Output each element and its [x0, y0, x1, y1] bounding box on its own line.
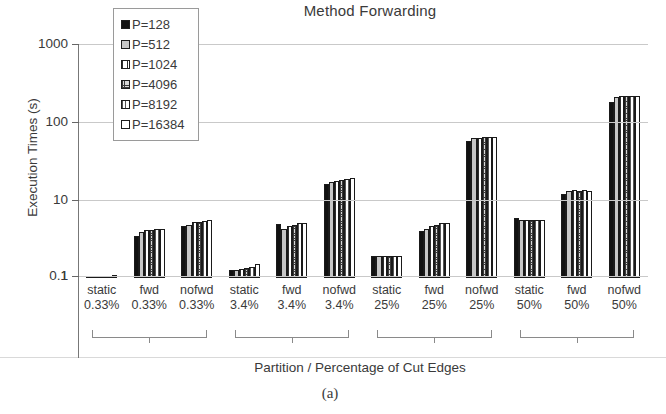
legend-label: P=8192 [132, 97, 177, 112]
x-tick-partition: nofwd [465, 283, 498, 297]
legend-item-P-1024: P=1024 [121, 54, 193, 74]
x-tick-labels: static0.33%fwd0.33%nofwd0.33%static3.4%f… [78, 283, 648, 327]
legend-item-P-128: P=128 [121, 14, 193, 34]
group-bracket-25% [377, 330, 492, 338]
bar [397, 256, 402, 278]
legend-label: P=128 [132, 17, 170, 32]
group-brackets [78, 327, 648, 343]
y-tick-label-0.1: 0.1 [0, 268, 68, 283]
bar-group-static-25% [371, 44, 402, 278]
legend-item-P-4096: P=4096 [121, 74, 193, 94]
bar [160, 229, 165, 278]
y-tick-label-1000: 1000 [0, 36, 68, 51]
x-tick-partition: nofwd [323, 283, 356, 297]
y-tick-0.1 [72, 276, 79, 277]
x-axis-label: Partition / Percentage of Cut Edges [150, 360, 570, 375]
group-bracket-3.4% [235, 330, 350, 338]
legend: P=128P=512P=1024P=4096P=8192P=16384 [113, 8, 199, 141]
bar [492, 137, 497, 278]
bar-group-nofwd-50% [609, 44, 640, 278]
legend-label: P=1024 [132, 57, 177, 72]
bar [635, 96, 640, 278]
bar [540, 220, 545, 278]
bar-group-fwd-50% [561, 44, 592, 278]
bracket-stem [577, 337, 578, 343]
y-axis-extension [78, 278, 79, 358]
bar-group-static-50% [514, 44, 545, 278]
y-tick-label-100: 100 [0, 114, 68, 129]
legend-label: P=4096 [132, 77, 177, 92]
bar-group-fwd-3.4% [276, 44, 307, 278]
bar-group-nofwd-3.4% [324, 44, 355, 278]
x-tick-partition: static [515, 283, 544, 297]
figure-method-forwarding: Method Forwarding Execution Times (s) 10… [0, 0, 666, 414]
legend-item-P-16384: P=16384 [121, 114, 193, 134]
legend-swatch-vline2 [121, 100, 130, 109]
bar [445, 223, 450, 278]
y-tick-label-10: 10 [0, 192, 68, 207]
bottom-divider [0, 357, 666, 358]
group-bracket-50% [520, 330, 635, 338]
x-tick-partition: fwd [282, 283, 301, 297]
bar [302, 223, 307, 278]
x-tick-partition: fwd [140, 283, 159, 297]
bar [587, 191, 592, 278]
legend-label: P=16384 [132, 117, 184, 132]
y-tick-100 [72, 122, 79, 123]
legend-swatch-white [121, 120, 130, 129]
legend-swatch-dots [121, 40, 130, 49]
x-tick-partition: fwd [567, 283, 586, 297]
bar [350, 178, 355, 278]
legend-swatch-vline [121, 60, 130, 69]
x-tick-label: nofwd50% [597, 283, 653, 313]
x-tick-partition: nofwd [180, 283, 213, 297]
bar-group-static-3.4% [229, 44, 260, 278]
y-axis-label: Execution Times (s) [25, 43, 40, 273]
chart-title: Method Forwarding [250, 2, 490, 19]
figure-caption: (a) [250, 385, 410, 402]
bar-group-nofwd-25% [466, 44, 497, 278]
legend-swatch-solid [121, 20, 130, 29]
x-tick-partition: fwd [425, 283, 444, 297]
bar [207, 220, 212, 278]
x-tick-partition: static [372, 283, 401, 297]
x-tick-partition: nofwd [608, 283, 641, 297]
y-tick-1000 [72, 44, 79, 45]
legend-item-P-512: P=512 [121, 34, 193, 54]
x-tick-partition: static [87, 283, 116, 297]
gridline-0.1 [78, 276, 648, 277]
bracket-stem [292, 337, 293, 343]
legend-label: P=512 [132, 37, 170, 52]
legend-item-P-8192: P=8192 [121, 94, 193, 114]
x-tick-partition: static [230, 283, 259, 297]
gridline-10 [78, 200, 648, 201]
bracket-stem [149, 337, 150, 343]
y-tick-10 [72, 200, 79, 201]
x-tick-percent: 50% [597, 298, 653, 313]
bar-group-fwd-25% [419, 44, 450, 278]
legend-swatch-cross [121, 80, 130, 89]
bracket-stem [434, 337, 435, 343]
group-bracket-0.33% [92, 330, 207, 338]
